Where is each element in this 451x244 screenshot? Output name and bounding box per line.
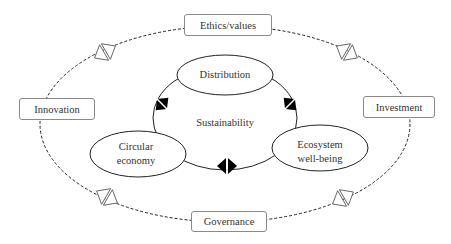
outer-marker-bottom-right-icon (328, 184, 358, 212)
inner-marker-bottom-icon (217, 157, 237, 175)
outer-marker-top-left-icon (90, 38, 120, 66)
circular-economy-line2: economy (117, 154, 156, 168)
circular-economy-line1: Circular (117, 140, 156, 154)
governance-box: Governance (191, 211, 267, 232)
sustainability-label: Sustainability (196, 116, 254, 130)
outer-marker-top-right-icon (332, 38, 362, 66)
ecosystem-line1: Ecosystem (297, 138, 343, 152)
innovation-box: Innovation (19, 98, 95, 120)
distribution-label: Distribution (200, 68, 251, 82)
ecosystem-line2: well-being (297, 152, 343, 166)
outer-marker-bottom-left-icon (92, 183, 122, 211)
circular-economy-label: Circular economy (117, 140, 156, 168)
ecosystem-label: Ecosystem well-being (297, 138, 343, 166)
investment-box: Investment (363, 96, 435, 118)
ethics-values-box: Ethics/values (184, 14, 272, 36)
